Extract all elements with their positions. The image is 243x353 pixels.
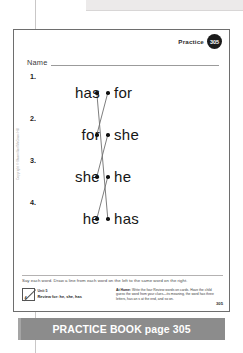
practice-label: Practice	[178, 38, 204, 45]
table-row: 4. he has	[14, 198, 231, 240]
connector-dot-right[interactable]	[106, 217, 110, 221]
unit-glyph-number: 4	[25, 295, 27, 300]
instruction-text: Say each word. Draw a line from each wor…	[22, 278, 223, 283]
row-number: 2.	[30, 114, 36, 123]
table-row: 2. for she	[14, 114, 231, 156]
at-home-note: At Home: Write the four Review words on …	[116, 288, 216, 301]
practice-badge: Practice 305	[178, 34, 222, 49]
banner-label: PRACTICE BOOK page 305	[52, 323, 190, 335]
word-right: for	[114, 84, 132, 101]
banner-left-edge	[18, 318, 21, 340]
word-right: he	[114, 168, 131, 185]
unit-info: 4 Unit 5 Review for: he, she, has	[22, 288, 110, 301]
worksheet-footer: 4 Unit 5 Review for: he, she, has At Hom…	[22, 288, 223, 301]
unit-topic: Review for: he, she, has	[38, 294, 82, 299]
scan-artifact-top-rule	[86, 10, 243, 11]
row-number: 1.	[30, 72, 36, 81]
unit-name: Unit 5	[38, 289, 82, 293]
practice-number-circle: 305	[207, 34, 222, 49]
name-label: Name	[27, 58, 48, 67]
unit-text-block: Unit 5 Review for: he, she, has	[38, 288, 82, 299]
table-row: 3. she he	[14, 156, 231, 198]
table-row: 1. has for	[14, 72, 231, 114]
connector-dot-left[interactable]	[95, 217, 99, 221]
practice-book-banner: PRACTICE BOOK page 305	[18, 318, 225, 340]
name-write-line[interactable]	[51, 65, 219, 66]
connector-dot-left[interactable]	[95, 133, 99, 137]
connector-dot-left[interactable]	[95, 91, 99, 95]
instruction-divider	[22, 275, 223, 276]
scan-artifact-top-bar	[86, 0, 243, 10]
connector-dot-right[interactable]	[106, 133, 110, 137]
matching-exercise: 1. has for 2. for she 3. she he 4. he ha…	[14, 72, 231, 272]
instruction-block: Say each word. Draw a line from each wor…	[22, 275, 223, 283]
word-right: she	[114, 126, 139, 143]
unit-square-icon: 4	[22, 288, 35, 301]
page-number: 305	[216, 301, 223, 306]
connector-dot-right[interactable]	[106, 175, 110, 179]
at-home-text: Write the four Review words on cards. Ha…	[116, 288, 214, 301]
at-home-label: At Home:	[116, 288, 131, 292]
word-right: has	[114, 210, 139, 227]
connector-dot-right[interactable]	[106, 91, 110, 95]
copyright-notice: Copyright © Macmillan/McGraw-Hill	[16, 128, 20, 180]
worksheet-page: Practice 305 Name 1. has for 2. for	[13, 29, 230, 312]
connector-dot-left[interactable]	[95, 175, 99, 179]
name-field-row: Name	[27, 58, 219, 67]
row-number: 4.	[30, 198, 36, 207]
row-number: 3.	[30, 156, 36, 165]
